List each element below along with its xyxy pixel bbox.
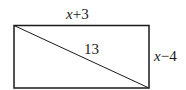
right-side-offset: −4 [161,48,177,64]
top-side-offset: +3 [73,6,89,22]
top-side-label: x+3 [65,6,89,22]
right-side-label: x−4 [153,48,177,64]
diagonal-length-label: 13 [84,41,99,57]
rectangle-diagram: x+3 x−4 13 [0,0,186,90]
diagonal-line [14,26,149,89]
